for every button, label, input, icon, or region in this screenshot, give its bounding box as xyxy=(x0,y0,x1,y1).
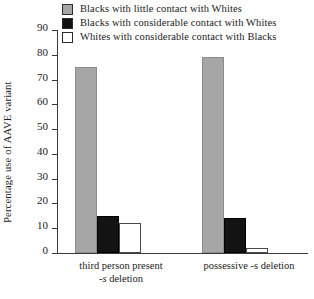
bar-group1-series1 xyxy=(75,67,97,253)
legend-item-label: Blacks with little contact with Whites xyxy=(80,3,242,15)
plot-area: 90 80 70 60 50 40 30 20 10 0 xyxy=(57,30,305,253)
x-group-label-line2-rest: deletion xyxy=(107,273,143,284)
bar-group1-series3 xyxy=(119,223,141,253)
y-tick-label: 90 xyxy=(37,22,48,33)
bar-chart-figure: Blacks with little contact with Whites B… xyxy=(0,0,314,299)
x-group-label-line2: -s deletion xyxy=(55,272,187,285)
x-group-label-line1: third person present xyxy=(79,260,162,271)
y-tick-label: 40 xyxy=(37,146,48,157)
y-axis-title: Percentage use of AAVE variant xyxy=(2,62,18,242)
y-tick-label: 0 xyxy=(43,245,49,256)
legend-item-blacks-considerable-contact: Blacks with considerable contact with Wh… xyxy=(62,16,312,30)
bar-group2-series2 xyxy=(224,218,246,253)
y-axis-line xyxy=(57,30,58,253)
gray-swatch-icon xyxy=(62,4,73,15)
y-tick-20: 20 xyxy=(52,203,57,204)
y-tick-60: 60 xyxy=(52,104,57,105)
y-tick-label: 80 xyxy=(37,47,48,58)
black-swatch-icon xyxy=(62,18,73,29)
y-tick-30: 30 xyxy=(52,179,57,180)
y-tick-0: 0 xyxy=(52,253,57,254)
y-tick-70: 70 xyxy=(52,80,57,81)
x-group-label-line2-italic: -s xyxy=(99,273,107,284)
bar-group2-series3 xyxy=(246,248,268,253)
y-tick-label: 50 xyxy=(37,121,48,132)
x-group-label-line1: possessive -s deletion xyxy=(204,260,295,271)
y-tick-label: 70 xyxy=(37,72,48,83)
y-tick-label: 30 xyxy=(37,171,48,182)
bar-group1-series2 xyxy=(97,216,119,253)
y-tick-label: 10 xyxy=(37,220,48,231)
y-tick-10: 10 xyxy=(52,228,57,229)
legend-item-label: Blacks with considerable contact with Wh… xyxy=(80,17,276,29)
y-tick-label: 20 xyxy=(37,195,48,206)
y-tick-50: 50 xyxy=(52,129,57,130)
y-tick-label: 60 xyxy=(37,96,48,107)
bar-group2-series1 xyxy=(202,57,224,253)
y-tick-80: 80 xyxy=(52,55,57,56)
x-group-label-third-person: third person present -s deletion xyxy=(55,259,187,285)
x-axis-line xyxy=(54,253,308,254)
x-group-label-possessive: possessive -s deletion xyxy=(184,259,314,272)
y-tick-40: 40 xyxy=(52,154,57,155)
y-tick-90: 90 xyxy=(52,30,57,31)
legend-item-blacks-little-contact: Blacks with little contact with Whites xyxy=(62,2,312,16)
